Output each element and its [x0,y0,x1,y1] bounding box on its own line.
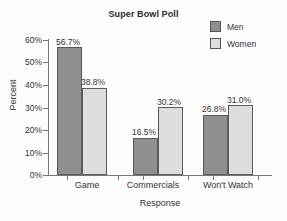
x-axis-title: Response [48,198,272,208]
bar-group-commercials: 16.5% 30.2% [133,40,183,175]
y-tick-label-60: 60% [2,36,42,45]
x-axis-line [48,175,272,176]
plot-area: 56.7% 38.8% 16.5% 30.2% 26.8% 31.0% [48,40,270,175]
x-label-commercials: Commercials [116,180,190,190]
y-tick-label-40: 40% [2,81,42,90]
bar-women-commercials: 30.2% [158,107,183,175]
legend-swatch-men-icon [210,21,221,32]
y-tick-label-50: 50% [2,58,42,67]
y-axis-title: Percent [8,60,18,130]
bar-value-women-commercials: 30.2% [157,98,181,109]
bar-men-game: 56.7% [57,47,82,175]
bar-women-game: 38.8% [82,88,107,175]
y-tick-label-30: 30% [2,104,42,113]
y-tick-label-10: 10% [2,149,42,158]
y-tick-0 [43,175,48,176]
bar-value-women-game: 38.8% [81,78,105,89]
bar-value-men-game: 56.7% [56,38,80,49]
legend-label-men: Men [227,22,244,32]
bar-men-commercials: 16.5% [133,138,158,175]
bar-group-game: 56.7% 38.8% [57,40,107,175]
bar-men-wont-watch: 26.8% [203,115,228,175]
bar-group-wont-watch: 26.8% 31.0% [203,40,253,175]
x-label-wont-watch: Won't Watch [193,180,263,190]
y-tick-label-20: 20% [2,126,42,135]
bar-value-men-wont-watch: 26.8% [202,105,226,116]
bar-value-women-wont-watch: 31.0% [227,96,251,107]
bar-women-wont-watch: 31.0% [228,105,253,175]
chart-title: Super Bowl Poll [0,9,287,19]
bar-chart: Super Bowl Poll Men Women Percent 60% 50… [0,0,287,221]
x-label-game: Game [57,180,117,190]
y-tick-label-0: 0% [2,171,42,180]
legend-item-men: Men [210,19,282,34]
bar-value-men-commercials: 16.5% [132,128,156,139]
